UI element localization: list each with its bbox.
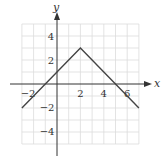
coordinate-plane: x y −2 2 4 6 4 2 −2 −4 bbox=[0, 0, 167, 159]
y-tick-label: 4 bbox=[48, 31, 54, 42]
y-axis-label: y bbox=[52, 1, 60, 14]
y-tick-label: −2 bbox=[40, 102, 55, 113]
x-axis-arrow-icon bbox=[144, 81, 152, 87]
x-tick-label: 2 bbox=[77, 88, 83, 99]
y-tick-label: 2 bbox=[48, 55, 54, 66]
x-axis-label: x bbox=[154, 77, 161, 90]
y-tick-label: −4 bbox=[40, 126, 55, 137]
x-tick-label: 4 bbox=[101, 88, 107, 99]
